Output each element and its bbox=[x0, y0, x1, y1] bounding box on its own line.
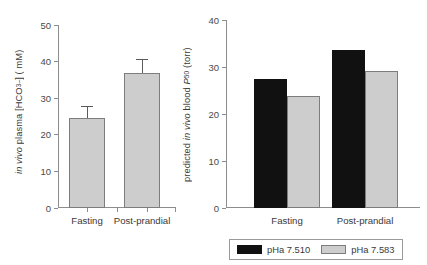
y-axis-title-left-italic: in vivo bbox=[14, 147, 24, 174]
plot-area-right: 40 30 20 10 0 bbox=[226, 20, 420, 208]
legend-swatch-black bbox=[237, 245, 262, 254]
x-label-fasting-right: Fasting bbox=[271, 215, 302, 226]
y-axis-line-left bbox=[58, 25, 59, 208]
x-label-postprandial-left: Post-prandial bbox=[114, 215, 171, 226]
y-tick-mark-20 bbox=[54, 134, 58, 135]
y-axis-title-right-mid: blood bbox=[182, 85, 192, 114]
x-label-postprandial-right: Post-prandial bbox=[337, 215, 394, 226]
y-tick-label-20: 20 bbox=[40, 129, 54, 140]
bar-fasting-pha-7583 bbox=[287, 96, 320, 208]
y-tick-mark-20-right bbox=[222, 114, 226, 115]
y-axis-title-right-italic2: P bbox=[182, 79, 192, 85]
y-tick-mark-30 bbox=[54, 98, 58, 99]
plot-area-left: 50 40 30 20 10 0 bbox=[58, 25, 176, 208]
legend-label-pha-7583: pHa 7.583 bbox=[351, 244, 394, 255]
errorcap-postprandial-plasma bbox=[136, 59, 148, 60]
bar-postprandial-pha-7583 bbox=[365, 71, 398, 208]
bar-fasting-pha-7510 bbox=[254, 79, 287, 208]
y-tick-mark-10-right bbox=[222, 161, 226, 162]
x-tick-mark-2 bbox=[117, 208, 118, 212]
y-tick-label-30-right: 30 bbox=[208, 62, 222, 73]
y-tick-mark-0-right bbox=[222, 208, 226, 209]
x-tick-mark-4 bbox=[175, 208, 176, 212]
y-axis-line-right bbox=[226, 20, 227, 208]
y-axis-title-right-subscript: 50 bbox=[183, 71, 190, 79]
y-axis-title-right: predicted in vivo blood P50 (torr) bbox=[182, 22, 192, 208]
x-tick-mark-3 bbox=[147, 208, 148, 212]
y-axis-title-right-italic: in vivo bbox=[182, 114, 192, 141]
y-tick-mark-40-right bbox=[222, 20, 226, 21]
y-tick-mark-30-right bbox=[222, 67, 226, 68]
bar-postprandial-pha-7510 bbox=[332, 50, 365, 208]
y-axis-title-left-subscript: 3 bbox=[15, 84, 22, 88]
legend-swatch-gray bbox=[321, 245, 346, 254]
y-tick-mark-40 bbox=[54, 61, 58, 62]
y-tick-label-50: 50 bbox=[40, 20, 54, 31]
y-tick-label-0-right: 0 bbox=[214, 203, 222, 214]
y-axis-title-left-superscript: – bbox=[15, 80, 22, 84]
y-axis-title-left-tail: ] ( mM) bbox=[14, 50, 24, 80]
y-axis-title-right-tail: (torr) bbox=[182, 48, 192, 71]
y-tick-mark-0 bbox=[54, 208, 58, 209]
legend-label-pha-7510: pHa 7.510 bbox=[267, 244, 310, 255]
errorcap-fasting-plasma bbox=[81, 106, 93, 107]
y-axis-title-left-rest: plasma [HCO bbox=[14, 88, 24, 148]
figure-panel-pair: in vivo plasma [HCO3–] ( mM) 50 40 30 20 bbox=[0, 0, 427, 265]
bar-fasting-plasma bbox=[69, 118, 105, 208]
legend: pHa 7.510 pHa 7.583 bbox=[229, 239, 403, 260]
y-tick-label-10: 10 bbox=[40, 166, 54, 177]
errorbar-postprandial-plasma bbox=[142, 60, 143, 73]
chart-predicted-p50: predicted in vivo blood P50 (torr) 40 30… bbox=[196, 0, 427, 232]
y-tick-mark-50 bbox=[54, 25, 58, 26]
x-tick-mark-1 bbox=[87, 208, 88, 212]
legend-entry-pha-7510: pHa 7.510 bbox=[237, 244, 310, 255]
y-tick-label-20-right: 20 bbox=[208, 109, 222, 120]
y-tick-label-40-right: 40 bbox=[208, 15, 222, 26]
legend-entry-pha-7583: pHa 7.583 bbox=[321, 244, 394, 255]
y-axis-title-right-lead: predicted bbox=[182, 141, 192, 183]
y-tick-mark-10 bbox=[54, 171, 58, 172]
y-tick-label-0: 0 bbox=[46, 203, 54, 214]
y-tick-label-40: 40 bbox=[40, 56, 54, 67]
y-tick-label-10-right: 10 bbox=[208, 156, 222, 167]
chart-plasma-bicarbonate: in vivo plasma [HCO3–] ( mM) 50 40 30 20 bbox=[0, 0, 196, 232]
bar-postprandial-plasma bbox=[124, 73, 160, 208]
y-axis-title-left: in vivo plasma [HCO3–] ( mM) bbox=[14, 28, 24, 196]
x-label-fasting-left: Fasting bbox=[71, 215, 102, 226]
y-tick-label-30: 30 bbox=[40, 93, 54, 104]
errorbar-fasting-plasma bbox=[87, 107, 88, 118]
